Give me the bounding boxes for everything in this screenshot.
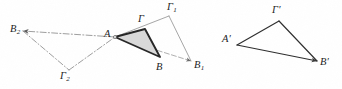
geometry-figure: A Γ B Γ1 B1 B2 Γ2 A′ Γ′ B′ (0, 0, 342, 89)
label-Gamma1-subscript: 1 (173, 6, 177, 14)
label-Gamma: Γ (138, 14, 144, 25)
label-Gamma-prime-mark: ′ (278, 4, 280, 15)
label-B1-subscript: 1 (200, 64, 204, 72)
outline-triangle-primed (237, 21, 317, 61)
label-Gamma2-subscript: 2 (66, 75, 70, 83)
label-A: A (104, 29, 110, 40)
label-B2-subscript: 2 (16, 28, 20, 36)
label-B2: B2 (10, 24, 20, 36)
label-A-prime: A′ (222, 34, 231, 45)
segment-Aprime-Gammaprime (237, 21, 279, 45)
label-B-prime: B′ (320, 57, 329, 68)
label-B1: B1 (194, 60, 204, 72)
shaded-triangle-AGammaB (115, 29, 160, 57)
label-Gamma-prime: Γ′ (272, 5, 280, 16)
vertex-dot-A (114, 36, 117, 39)
segment-Gamma1-B1 (169, 16, 191, 61)
segment-A-B2 (23, 31, 115, 37)
segment-Aprime-Bprime (237, 45, 317, 61)
dashdot-triangle-AB2Gamma2 (23, 31, 115, 70)
segment-Gamma2-A (69, 37, 115, 70)
segment-B2-Gamma2 (23, 31, 69, 70)
label-A-prime-mark: ′ (228, 33, 230, 44)
label-B: B (156, 62, 162, 73)
label-Gamma-text: Γ (138, 13, 144, 24)
label-Gamma2: Γ2 (60, 71, 70, 83)
label-Gamma1: Γ1 (167, 2, 177, 14)
label-A-text: A (104, 28, 110, 39)
label-B-text: B (156, 61, 162, 72)
label-B-prime-mark: ′ (326, 56, 328, 67)
